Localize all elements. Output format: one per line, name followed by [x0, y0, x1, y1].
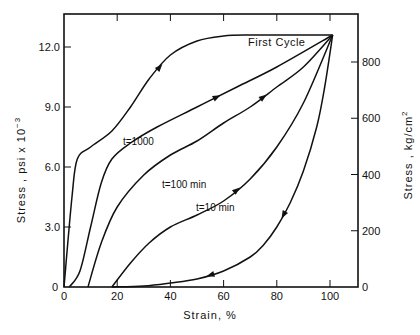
x-tick-label: 20: [111, 290, 123, 302]
y-tick-label: 12.0: [39, 41, 60, 53]
x-tick-label: 100: [321, 290, 339, 302]
x-tick-label: 60: [217, 290, 229, 302]
y-tick-label: 0: [52, 281, 58, 293]
curve-label: t=10 min: [196, 202, 235, 213]
y-tick-label: 3.0: [45, 221, 60, 233]
y-tick-label: 9.0: [45, 101, 60, 113]
stress-strain-chart: 02040608010003.06.09.012.00200400600800 …: [0, 0, 420, 335]
y-right-tick-label: 400: [362, 169, 380, 181]
curve-label: t=1000: [123, 136, 154, 147]
curve-t-10-min: [112, 35, 333, 287]
curves: [64, 35, 333, 287]
plot-border: [64, 14, 358, 287]
curve-t-100-min: [88, 35, 333, 287]
y-right-tick-label: 200: [362, 225, 380, 237]
curve-labels: First Cyclet=1000t=100 mint=10 min: [123, 36, 305, 213]
curve-t-1000: [69, 35, 332, 287]
x-axis-label: Strain, %: [183, 309, 237, 321]
y-right-tick-label: 800: [362, 56, 380, 68]
arrow-icon: [212, 93, 222, 102]
curve-label: t=100 min: [162, 179, 206, 190]
curve-unloading: [112, 35, 333, 287]
y-left-label-main: Stress , psi x 10: [15, 128, 27, 223]
y-tick-label: 6.0: [45, 161, 60, 173]
x-tick-label: 40: [164, 290, 176, 302]
arrow-icon: [206, 271, 215, 279]
y-right-tick-label: 0: [362, 281, 368, 293]
x-tick-label: 80: [271, 290, 283, 302]
curve-first-cycle: [64, 35, 333, 287]
plot-frame: [64, 14, 358, 287]
y-axis-label-left: Stress , psi x 10−3: [13, 117, 27, 223]
curve-label: First Cycle: [248, 36, 305, 48]
y-right-tick-label: 600: [362, 112, 380, 124]
y-axis-label-right: Stress , kg/cm2: [400, 110, 414, 199]
x-tick-label: 0: [61, 290, 67, 302]
